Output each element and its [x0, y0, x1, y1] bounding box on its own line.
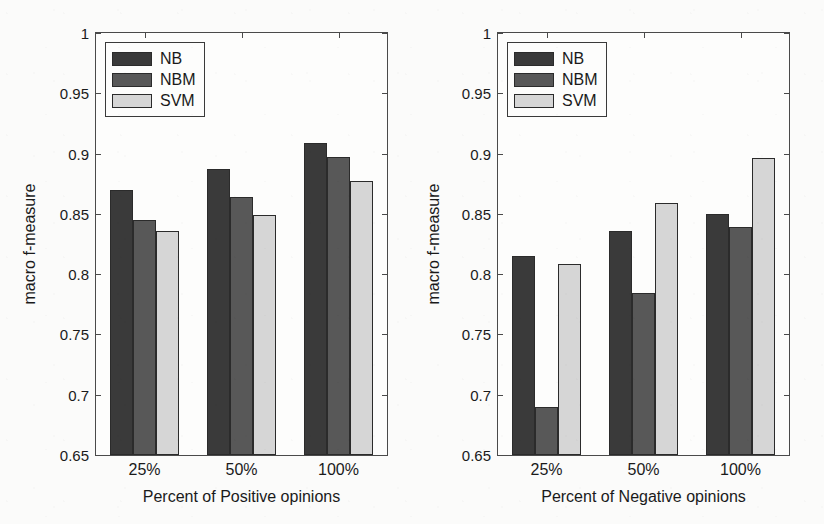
y-tick-mark	[498, 154, 503, 155]
y-tick-mark	[498, 214, 503, 215]
y-tick-mark	[96, 154, 101, 155]
y-axis-title: macro f-measure	[22, 184, 38, 305]
y-axis-title: macro f-measure	[426, 184, 442, 305]
y-tick-mark-right	[784, 455, 789, 456]
legend-swatch-icon	[112, 94, 152, 108]
y-tick-mark-right	[784, 93, 789, 94]
bar	[512, 256, 535, 455]
legend: NBNBMSVM	[507, 42, 607, 117]
legend-label: SVM	[160, 93, 195, 109]
y-tick-label: 0.95	[60, 86, 89, 101]
x-tick-mark-top	[145, 33, 146, 38]
y-tick-mark-right	[382, 334, 387, 335]
y-tick-mark-right	[382, 154, 387, 155]
legend-item: NB	[514, 48, 598, 69]
y-tick-mark	[498, 455, 503, 456]
bar	[253, 215, 276, 455]
legend-label: NB	[562, 51, 584, 67]
bar	[752, 158, 775, 455]
y-tick-label: 0.85	[462, 206, 491, 221]
y-tick-label: 0.8	[470, 267, 491, 282]
bar	[535, 407, 558, 455]
bar	[632, 293, 655, 455]
y-tick-label: 0.75	[462, 327, 491, 342]
y-tick-mark	[498, 395, 503, 396]
y-tick-mark	[498, 33, 503, 34]
x-tick-mark-top	[547, 33, 548, 38]
y-tick-mark	[96, 395, 101, 396]
legend-label: NBM	[562, 72, 598, 88]
y-tick-label: 0.7	[68, 387, 89, 402]
legend-swatch-icon	[514, 73, 554, 87]
y-tick-mark-right	[784, 33, 789, 34]
y-tick-label: 0.9	[470, 146, 491, 161]
y-tick-label: 0.65	[60, 448, 89, 463]
y-tick-mark	[96, 455, 101, 456]
plot-area: 10.950.90.850.80.750.70.65 25%50%100% NB…	[497, 32, 790, 456]
chart-panel-positive: macro f-measure 10.950.90.850.80.750.70.…	[0, 0, 412, 524]
y-tick-label: 0.95	[462, 86, 491, 101]
legend-label: NBM	[160, 72, 196, 88]
legend-item: SVM	[112, 90, 196, 111]
bar	[350, 181, 373, 455]
y-tick-label: 1	[81, 26, 89, 41]
y-tick-mark-right	[382, 214, 387, 215]
legend-item: SVM	[514, 90, 598, 111]
figure-canvas: macro f-measure 10.950.90.850.80.750.70.…	[0, 0, 824, 524]
legend: NBNBMSVM	[105, 42, 205, 117]
x-tick-label: 25%	[530, 462, 562, 478]
y-tick-mark	[96, 274, 101, 275]
x-tick-mark-top	[242, 33, 243, 38]
bar	[609, 231, 632, 455]
chart-panel-negative: macro f-measure 10.950.90.850.80.750.70.…	[412, 0, 824, 524]
y-tick-mark	[498, 334, 503, 335]
x-tick-label: 100%	[720, 462, 761, 478]
y-tick-mark	[498, 93, 503, 94]
x-tick-label: 50%	[627, 462, 659, 478]
bar	[655, 203, 678, 455]
x-axis-title: Percent of Positive opinions	[95, 489, 388, 505]
plot-area: 10.950.90.850.80.750.70.65 25%50%100% NB…	[95, 32, 388, 456]
legend-swatch-icon	[514, 94, 554, 108]
legend-label: SVM	[562, 93, 597, 109]
x-tick-mark-top	[741, 33, 742, 38]
y-tick-mark-right	[784, 274, 789, 275]
x-tick-mark-top	[339, 33, 340, 38]
y-tick-label: 0.75	[60, 327, 89, 342]
bar	[304, 143, 327, 455]
y-tick-mark-right	[382, 395, 387, 396]
legend-swatch-icon	[112, 52, 152, 66]
y-tick-mark-right	[382, 455, 387, 456]
bar	[110, 190, 133, 455]
y-tick-mark-right	[784, 395, 789, 396]
y-tick-mark	[96, 33, 101, 34]
legend-item: NBM	[514, 69, 598, 90]
y-tick-label: 0.7	[470, 387, 491, 402]
y-tick-mark-right	[784, 334, 789, 335]
y-tick-label: 0.8	[68, 267, 89, 282]
x-tick-mark-top	[644, 33, 645, 38]
x-axis-title: Percent of Negative opinions	[497, 489, 790, 505]
bar	[706, 214, 729, 455]
y-tick-label: 0.85	[60, 206, 89, 221]
bar	[207, 169, 230, 455]
y-tick-mark-right	[784, 154, 789, 155]
y-tick-label: 0.9	[68, 146, 89, 161]
y-tick-mark-right	[382, 93, 387, 94]
bar	[558, 264, 581, 455]
bar	[327, 157, 350, 455]
y-tick-mark	[96, 214, 101, 215]
legend-swatch-icon	[112, 73, 152, 87]
bar	[230, 197, 253, 455]
y-tick-mark	[96, 93, 101, 94]
y-tick-mark-right	[382, 274, 387, 275]
y-tick-mark	[498, 274, 503, 275]
legend-label: NB	[160, 51, 182, 67]
y-tick-mark-right	[784, 214, 789, 215]
x-tick-label: 100%	[318, 462, 359, 478]
legend-item: NBM	[112, 69, 196, 90]
x-tick-label: 50%	[225, 462, 257, 478]
legend-item: NB	[112, 48, 196, 69]
bar	[729, 227, 752, 455]
y-tick-label: 1	[483, 26, 491, 41]
